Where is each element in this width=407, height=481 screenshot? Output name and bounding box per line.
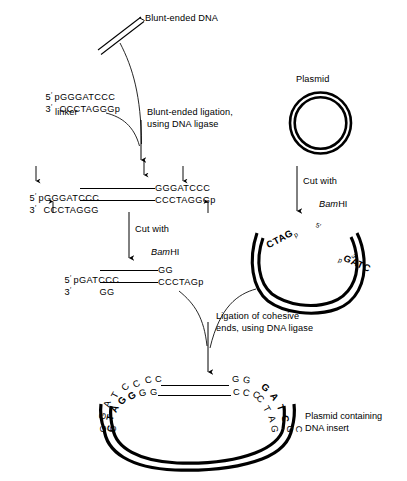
cut-product-bottom-right: CCCTAGp (158, 277, 204, 287)
plasmid-circle (290, 93, 351, 154)
final-top-left-c3: C (155, 374, 162, 384)
ligation-line2: ends, using DNA ligase (216, 323, 313, 334)
ligated-top-right: GGGATCCC (155, 183, 210, 193)
caption-line2: DNA insert (305, 423, 349, 435)
final-left-tail-g: G (98, 425, 108, 432)
final-right-outer-c: C (280, 414, 292, 422)
ligated-bottom-left: CCCTAGGG (43, 205, 98, 215)
prime-mark: ′ (35, 204, 37, 211)
final-right-tail-g: G (285, 425, 295, 432)
enzyme-name-italic: Bam (319, 199, 338, 209)
final-bottom-left-g3: G (150, 387, 157, 397)
cut-product-top-right: GG (158, 265, 173, 275)
ligated-bottom-right: CCCTAGGGp (155, 195, 216, 205)
enzyme-name-rest: HI (170, 247, 179, 257)
blunt-ligation-line1: Blunt-ended ligation, (147, 107, 233, 118)
cut-product-bottom-left: GG (99, 287, 114, 297)
figure-canvas: Blunt-ended DNA Plasmid 5′pGGGATCCC 3′CC… (0, 0, 407, 481)
enzyme-name-italic: Bam (151, 247, 170, 257)
blunt-ended-dna-label: Blunt-ended DNA (145, 13, 218, 24)
prime-mark: ′ (51, 103, 53, 110)
cut-with-line: Cut with (303, 176, 337, 187)
cut-with-line: Cut with (135, 224, 169, 235)
prime-mark: ′ (70, 286, 72, 293)
final-top-right-g1: G (232, 374, 239, 384)
final-plasmid-backbone (101, 404, 295, 470)
final-right-tail-c: C (294, 426, 304, 433)
linker-name-label: linker (55, 107, 78, 118)
final-left-tail-c: C (108, 426, 118, 433)
caption-line1: Plasmid containing (305, 411, 382, 423)
cut-plasmid-left-end: CTAG (264, 227, 295, 250)
final-insert-strand-lines (158, 386, 231, 396)
plasmid-label: Plasmid (296, 74, 329, 85)
final-bottom-right-c1: C (233, 387, 240, 397)
ligation-line1: Ligation of cohesive (216, 311, 299, 322)
enzyme-name-rest: HI (338, 199, 347, 209)
final-right-inner-g: G (269, 425, 279, 433)
blunt-ligation-line2: using DNA ligase (147, 119, 219, 130)
blunt-ended-dna-strands (98, 17, 145, 55)
